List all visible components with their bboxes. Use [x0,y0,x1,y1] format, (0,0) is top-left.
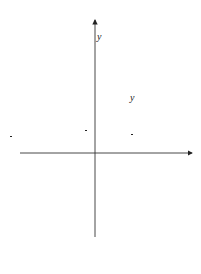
sinh-label: y [130,93,134,103]
half-exp-neg-label [131,127,133,138]
tick-half-label [85,125,87,135]
figure-caption [0,253,201,265]
half-exp-label [10,129,12,140]
cosh-label: y [97,32,101,42]
